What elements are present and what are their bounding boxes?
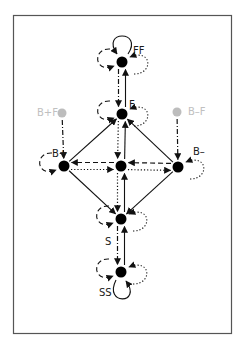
- edge-bp-to-s: [69, 171, 115, 214]
- node-label-ss: SS: [99, 287, 112, 298]
- edge-bm-to-s: [127, 172, 173, 214]
- edge-f-to-c: [118, 121, 119, 159]
- self-loop-ff-top: [113, 36, 132, 54]
- node-ff: [117, 57, 128, 68]
- node-bp: [59, 161, 70, 172]
- edge-bp-to-f: [69, 119, 116, 161]
- node-label-bpf: B+F: [37, 107, 58, 118]
- node-label-f: F: [129, 99, 135, 110]
- edge-c-to-f: [125, 122, 126, 160]
- nodes: [58, 57, 184, 278]
- node-label-bp: B+: [52, 148, 67, 159]
- edge-bm-to-c: [129, 163, 172, 164]
- self-loop-s-right: [129, 212, 147, 231]
- node-label-bm: B–: [193, 146, 205, 157]
- node-ss: [116, 267, 127, 278]
- self-loop-f-left: [98, 101, 114, 120]
- self-loop-ss-bottom: [113, 280, 130, 299]
- edge-bm-to-f: [127, 119, 172, 162]
- node-bmf: [173, 108, 182, 117]
- node-f: [117, 109, 128, 120]
- node-bpf: [58, 109, 67, 118]
- node-c: [116, 161, 127, 172]
- node-label-ff: FF: [133, 45, 145, 56]
- node-label-s: S: [105, 236, 111, 247]
- self-loop-ss-right: [129, 265, 147, 284]
- self-loop-ff-left: [98, 49, 114, 68]
- node-s: [116, 214, 127, 225]
- edge-bmf-to-bm: [177, 119, 178, 160]
- self-loop-ss-left: [97, 259, 113, 278]
- node-label-bmf: B–F: [188, 106, 206, 117]
- edge-c-to-bm: [128, 170, 171, 171]
- self-loop-ff-right: [130, 55, 148, 74]
- node-bm: [173, 162, 184, 173]
- self-loop-bm-right: [186, 160, 204, 179]
- state-diagram: FFFB+FB–FB+B–SSS: [0, 0, 244, 338]
